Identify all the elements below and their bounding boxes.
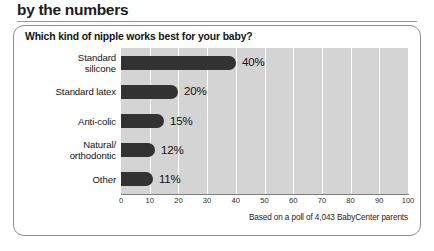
value-label: 15% xyxy=(170,115,192,127)
value-label: 20% xyxy=(184,85,206,97)
category-label-line: Anti-colic xyxy=(16,116,116,127)
section-kicker: by the numbers xyxy=(17,1,417,23)
category-label-line: Natural/ xyxy=(16,139,116,150)
x-tick-label: 80 xyxy=(346,196,354,205)
category-label-line: silicone xyxy=(16,63,116,74)
category-label-line: Other xyxy=(16,174,116,185)
category-label: Anti-colic xyxy=(16,116,116,127)
x-tick-label: 50 xyxy=(260,196,268,205)
category-label-line: Standard latex xyxy=(16,86,116,97)
x-tick-label: 60 xyxy=(289,196,297,205)
x-tick-label: 20 xyxy=(174,196,182,205)
category-labels-group: StandardsiliconeStandard latexAnti-colic… xyxy=(14,48,121,194)
value-label: 12% xyxy=(161,144,183,156)
value-label: 11% xyxy=(159,173,181,185)
infographic-root: by the numbers Which kind of nipple work… xyxy=(0,0,434,251)
x-tick-label: 40 xyxy=(232,196,240,205)
x-axis-ticks-group: 0102030405060708090100 xyxy=(14,196,422,210)
x-tick-label: 0 xyxy=(119,196,123,205)
category-label: Standardsilicone xyxy=(16,52,116,74)
x-tick-label: 10 xyxy=(145,196,153,205)
category-label-line: orthodontic xyxy=(16,150,116,161)
kicker-text: by the numbers xyxy=(17,1,417,19)
value-label: 40% xyxy=(242,56,264,68)
x-tick-label: 70 xyxy=(318,196,326,205)
source-annotation: Based on a poll of 4,043 BabyCenter pare… xyxy=(249,213,408,222)
category-label: Other xyxy=(16,174,116,185)
x-axis-line xyxy=(121,194,409,195)
chart-question-title: Which kind of nipple works best for your… xyxy=(25,31,252,42)
category-label: Standard latex xyxy=(16,86,116,97)
category-label: Natural/orthodontic xyxy=(16,139,116,161)
chart-card: Which kind of nipple works best for your… xyxy=(13,25,421,236)
x-tick-label: 100 xyxy=(402,196,415,205)
x-tick-label: 30 xyxy=(203,196,211,205)
x-tick-label: 90 xyxy=(375,196,383,205)
kicker-divider xyxy=(17,21,417,22)
value-labels-group: 40%20%15%12%11% xyxy=(121,48,421,194)
category-label-line: Standard xyxy=(16,52,116,63)
